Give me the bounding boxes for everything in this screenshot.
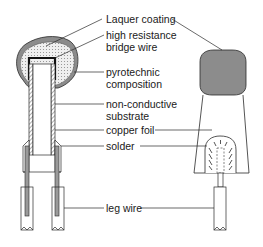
label-pyrotechnic-line1: pyrotechnic: [106, 66, 160, 78]
label-substrate-line1: non-conductive: [106, 98, 177, 110]
label-bridge-wire-line2: bridge wire: [106, 41, 157, 53]
external-view: [194, 50, 249, 230]
label-bridge-wire-line1: high resistance: [106, 29, 177, 41]
substrate-column: [33, 64, 51, 155]
label-pyrotechnic-line2: composition: [106, 78, 162, 90]
copper-foil-left: [29, 64, 33, 155]
label-copper-foil: copper foil: [106, 124, 154, 136]
label-laquer-coating: Laquer coating: [106, 13, 175, 25]
coated-head-shape: [200, 50, 246, 95]
copper-foil-right: [51, 64, 55, 155]
leg-wire-external: [214, 187, 226, 230]
label-substrate-line2: substrate: [106, 110, 149, 122]
label-solder: solder: [106, 140, 135, 152]
label-leg-wire: leg wire: [106, 202, 142, 214]
cross-section-view: [17, 37, 78, 230]
